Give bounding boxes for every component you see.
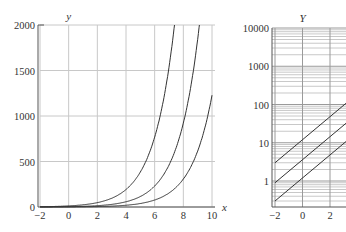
- y-tick-label: 1000: [248, 61, 269, 72]
- y-tick-label: 1500: [14, 66, 35, 77]
- y-tick-label: 1: [264, 176, 269, 187]
- x-axis-label: x: [221, 201, 227, 213]
- y-tick-label: 100: [253, 100, 269, 111]
- log-chart: −202110100100010000Y: [243, 12, 346, 221]
- line-line-2: [275, 123, 346, 182]
- y-tick-label: 10: [259, 138, 270, 149]
- x-tick-label: −2: [34, 210, 45, 221]
- x-tick-label: 10: [207, 210, 218, 221]
- figure: −202468100500100015002000yx −20211010010…: [0, 0, 346, 232]
- x-tick-label: 0: [66, 210, 71, 221]
- y-axis-label: Y: [299, 12, 307, 24]
- x-tick-label: 8: [181, 210, 186, 221]
- y-tick-label: 1000: [14, 111, 35, 122]
- y-tick-label: 0: [30, 202, 35, 213]
- y-tick-label: 500: [19, 157, 35, 168]
- linear-chart: −202468100500100015002000yx: [14, 10, 227, 221]
- y-tick-label: 2000: [14, 20, 35, 31]
- x-tick-label: 2: [327, 210, 332, 221]
- x-tick-label: 6: [152, 210, 157, 221]
- x-tick-label: −2: [269, 210, 280, 221]
- x-tick-label: 4: [123, 210, 129, 221]
- x-tick-label: 2: [95, 210, 100, 221]
- y-tick-label: 10000: [243, 23, 269, 34]
- y-axis-label: y: [65, 10, 71, 22]
- x-tick-label: 0: [300, 210, 305, 221]
